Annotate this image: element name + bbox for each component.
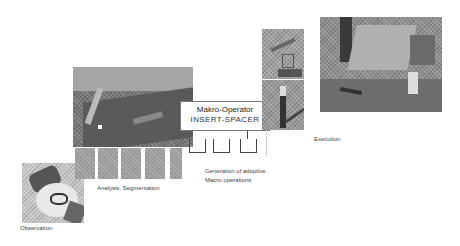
segment-thumb-4 — [145, 148, 165, 179]
execution-label: Execution — [314, 136, 340, 143]
macro-operator-box: Makro-Operator INSERT-SPACER — [180, 101, 270, 131]
generation-label-line2: Macro operations — [205, 177, 251, 184]
segment-thumb-2 — [98, 148, 118, 179]
generation-label-line1: Generation of adoptive — [205, 168, 266, 175]
segment-thumb-3 — [121, 148, 141, 179]
observation-label: Observation — [20, 225, 52, 232]
execution-image-bottom — [262, 80, 304, 130]
analysis-label: Analysis, Segmentation — [97, 185, 160, 192]
macro-operator-title: Makro-Operator — [181, 105, 269, 115]
macro-operator-name: INSERT-SPACER — [181, 115, 269, 125]
macro-slot-3: ... — [240, 139, 257, 153]
segment-thumb-5 — [170, 148, 182, 179]
segment-thumb-1 — [75, 148, 95, 179]
execution-image-main — [320, 17, 442, 112]
macro-slot-1: ... — [189, 139, 206, 153]
execution-image-top — [262, 29, 304, 79]
macro-slot-2: ... — [213, 139, 230, 153]
analysis-main-image — [73, 67, 193, 147]
connector-line — [247, 131, 248, 139]
